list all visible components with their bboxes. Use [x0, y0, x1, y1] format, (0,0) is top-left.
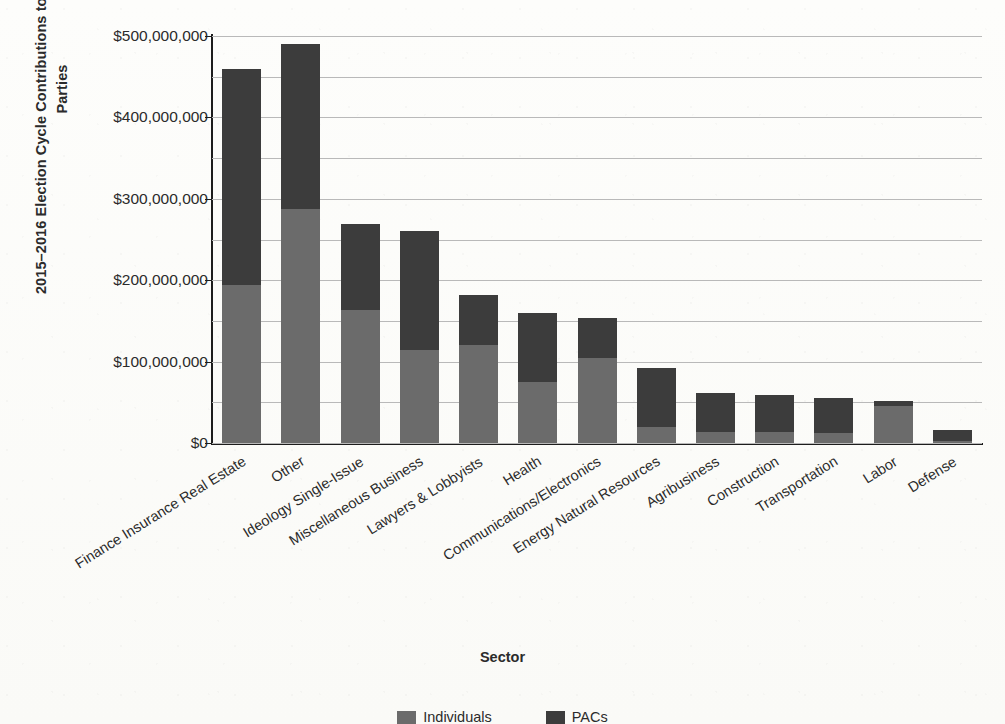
y-tick-label: $300,000,000: [113, 190, 208, 208]
gridline: [212, 280, 982, 281]
x-tick-label: Other: [268, 453, 307, 486]
x-tick-label: Labor: [860, 453, 900, 486]
y-tick-label: $400,000,000: [113, 108, 208, 126]
bar-segment-upper[interactable]: [696, 393, 735, 432]
y-tick-label: $100,000,000: [113, 353, 208, 371]
legend-swatch: [546, 711, 565, 724]
bar[interactable]: [814, 398, 853, 443]
bar-segment-upper[interactable]: [933, 430, 972, 441]
bar[interactable]: [341, 224, 380, 443]
bar[interactable]: [222, 69, 261, 443]
bar-segment-lower[interactable]: [755, 432, 794, 443]
bar-segment-lower[interactable]: [341, 310, 380, 443]
bar-segment-lower[interactable]: [578, 358, 617, 443]
x-tick-label: Finance Insurance Real Estate: [72, 453, 249, 572]
gridline: [212, 443, 982, 444]
x-axis-tick-labels: Finance Insurance Real EstateOtherIdeolo…: [0, 451, 1005, 631]
bar[interactable]: [755, 395, 794, 443]
bar-segment-upper[interactable]: [578, 318, 617, 359]
plot-area: [212, 36, 982, 443]
y-tick-label: $500,000,000: [113, 27, 208, 45]
bar[interactable]: [518, 313, 557, 443]
gridline: [212, 199, 982, 200]
legend-label: PACs: [572, 711, 608, 724]
bar[interactable]: [400, 231, 439, 444]
bar[interactable]: [578, 318, 617, 443]
bar-segment-lower[interactable]: [814, 433, 853, 443]
bar-segment-upper[interactable]: [814, 398, 853, 433]
bar-segment-upper[interactable]: [518, 313, 557, 382]
bar-segment-upper[interactable]: [341, 224, 380, 310]
bar-segment-lower[interactable]: [222, 285, 261, 443]
bar-segment-upper[interactable]: [637, 368, 676, 427]
bar-segment-upper[interactable]: [222, 69, 261, 286]
bar-segment-lower[interactable]: [874, 406, 913, 443]
bar-segment-upper[interactable]: [459, 295, 498, 346]
bar[interactable]: [459, 295, 498, 443]
bar-segment-lower[interactable]: [518, 382, 557, 443]
bar-segment-upper[interactable]: [281, 44, 320, 209]
bar-segment-lower[interactable]: [696, 432, 735, 443]
legend-item[interactable]: PACs: [546, 711, 608, 724]
gridline: [212, 158, 982, 159]
legend-item[interactable]: Individuals: [397, 711, 492, 724]
bar-segment-upper[interactable]: [400, 231, 439, 351]
bar[interactable]: [933, 430, 972, 443]
gridline: [212, 117, 982, 118]
bar-segment-lower[interactable]: [400, 350, 439, 443]
gridline: [212, 77, 982, 78]
bar-segment-upper[interactable]: [755, 395, 794, 432]
legend-label: Individuals: [423, 711, 492, 724]
chart-legend: IndividualsPACs: [0, 711, 1005, 724]
legend-swatch: [397, 711, 416, 724]
bar-segment-lower[interactable]: [281, 209, 320, 443]
bar-segment-upper[interactable]: [874, 401, 913, 406]
bar-segment-lower[interactable]: [637, 427, 676, 443]
y-tick-label: $200,000,000: [113, 271, 208, 289]
gridline: [212, 36, 982, 37]
bar[interactable]: [874, 401, 913, 443]
y-axis-title: 2015–2016 Election Cycle Contributions t…: [31, 0, 73, 299]
bar-segment-lower[interactable]: [459, 345, 498, 443]
bar[interactable]: [281, 44, 320, 443]
gridline: [212, 240, 982, 241]
bar[interactable]: [696, 393, 735, 443]
bar-segment-lower[interactable]: [933, 441, 972, 443]
bar[interactable]: [637, 368, 676, 443]
x-tick-label: Health: [500, 453, 544, 489]
x-tick-label: Defense: [905, 453, 959, 495]
x-axis-title: Sector: [0, 649, 1005, 665]
chart-figure: 2015–2016 Election Cycle Contributions t…: [0, 0, 1005, 724]
